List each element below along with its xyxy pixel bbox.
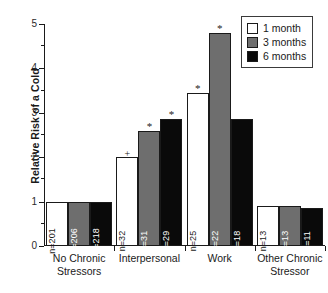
bar-sample-size-label: n=32	[118, 231, 127, 251]
bar: n=25*	[187, 93, 209, 246]
y-axis-tick-label: 3	[31, 108, 37, 118]
x-axis-separator-tick	[114, 246, 115, 251]
legend-item-label: 3 months	[263, 37, 306, 48]
bar-sample-size-label: n=218	[92, 228, 101, 253]
bar: n=13	[257, 206, 279, 246]
bar-sample-size-label: n=206	[70, 228, 79, 253]
x-axis-separator-tick	[325, 246, 326, 251]
bar-sample-size-label: n=201	[48, 228, 57, 253]
x-axis-category-label: Interpersonal	[114, 252, 184, 265]
x-axis-category-label: Other ChronicStressor	[255, 252, 325, 278]
x-axis-category-label: Work	[185, 252, 255, 265]
legend-swatch-gray	[247, 37, 258, 48]
legend-item: 3 months	[247, 35, 306, 49]
y-axis-tick-label: 5	[31, 19, 37, 29]
y-axis-tick-label: 2	[31, 152, 37, 162]
y-axis-tick-label: 0	[31, 241, 37, 251]
legend-swatch-white	[247, 23, 258, 34]
bar-sample-size-label: n=22	[211, 231, 220, 251]
chart-figure: Relative Risk of a Cold 012345 n=201n=20…	[0, 0, 328, 293]
significance-marker-star: *	[147, 121, 153, 132]
y-axis-tick-label: 1	[31, 197, 37, 207]
legend-item-label: 1 month	[263, 23, 301, 34]
y-axis-tick	[39, 246, 44, 247]
y-axis-tick-label: 4	[31, 63, 37, 73]
x-axis-separator-tick	[255, 246, 256, 251]
significance-marker-star: *	[217, 23, 223, 34]
legend-item: 6 months	[247, 49, 306, 63]
bar: n=18	[231, 119, 253, 246]
bar-sample-size-label: n=13	[259, 231, 268, 251]
bar-sample-size-label: n=29	[162, 231, 171, 251]
legend-swatch-black	[247, 51, 258, 62]
bar: n=201	[46, 202, 68, 246]
bar-sample-size-label: n=18	[233, 231, 242, 251]
bar-group: n=201n=206n=218	[44, 24, 114, 246]
bar: n=32+	[116, 157, 138, 246]
x-axis-category-label: No ChronicStressors	[44, 252, 114, 278]
bar: n=29*	[160, 119, 182, 246]
significance-marker-star: *	[169, 109, 175, 120]
x-axis-category-labels: No ChronicStressorsInterpersonalWorkOthe…	[44, 252, 325, 292]
bar-sample-size-label: n=25	[189, 231, 198, 251]
bar: n=11	[301, 208, 323, 246]
bar-group: n=32+n=31*n=29*	[114, 24, 184, 246]
bar-sample-size-label: n=11	[303, 231, 312, 251]
bar: n=206	[68, 202, 90, 246]
x-axis-separator-tick	[185, 246, 186, 251]
significance-marker-plus: +	[125, 149, 131, 159]
bar: n=13	[279, 206, 301, 246]
bar: n=218	[90, 202, 112, 246]
bar-sample-size-label: n=31	[140, 231, 149, 251]
legend: 1 month 3 months 6 months	[241, 16, 313, 68]
bar-sample-size-label: n=13	[281, 231, 290, 251]
y-axis-title: Relative Risk of a Cold	[29, 31, 41, 221]
legend-item: 1 month	[247, 21, 306, 35]
bar: n=22*	[209, 33, 231, 246]
legend-item-label: 6 months	[263, 51, 306, 62]
significance-marker-star: *	[195, 83, 201, 94]
bar: n=31*	[138, 131, 160, 246]
